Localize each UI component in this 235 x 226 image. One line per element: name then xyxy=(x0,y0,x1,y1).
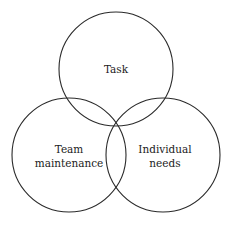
individual-needs-label-line1: Individual xyxy=(138,143,192,155)
team-maintenance-label-line2: maintenance xyxy=(35,157,104,169)
team-maintenance-label-line1: Team xyxy=(55,143,84,155)
venn-diagram: Task Team maintenance Individual needs xyxy=(0,0,235,226)
team-maintenance-circle xyxy=(12,98,126,212)
individual-needs-circle xyxy=(106,98,220,212)
individual-needs-label-line2: needs xyxy=(149,157,180,169)
task-label: Task xyxy=(104,63,129,75)
